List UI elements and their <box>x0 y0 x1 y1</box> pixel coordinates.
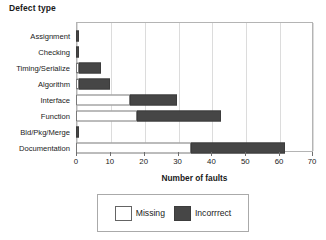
x-axis-title: Number of faults <box>76 173 313 183</box>
axis-tick <box>76 152 77 156</box>
bar-chart: Defect type Assignment Checking Timing/S… <box>0 0 326 240</box>
chart-legend: Missing Incorrrect <box>97 194 249 232</box>
axis-tick-label: 30 <box>173 157 182 166</box>
bar-segment-missing <box>76 94 130 105</box>
axis-tick <box>312 152 313 156</box>
bar-segment-incorrrect <box>76 126 79 137</box>
axis-tick-label: 50 <box>241 157 250 166</box>
axis-tick-label: 20 <box>139 157 148 166</box>
gridline <box>313 23 314 151</box>
bar-segment-incorrrect <box>76 30 79 41</box>
category-label: Timing/Serialize <box>0 63 73 72</box>
bar-segment-incorrrect <box>79 62 101 73</box>
axis-tick <box>110 152 111 156</box>
legend-swatch-missing-icon <box>115 206 132 221</box>
bar-segment-incorrrect <box>79 78 109 89</box>
legend-label: Incorrrect <box>195 208 231 218</box>
legend-swatch-incorrect-icon <box>174 206 191 221</box>
category-label: Interface <box>0 95 73 104</box>
category-label: Bld/Pkg/Merge <box>0 127 73 136</box>
bars-layer <box>76 22 313 152</box>
axis-tick <box>279 152 280 156</box>
axis-tick <box>144 152 145 156</box>
bar-segment-incorrrect <box>130 94 177 105</box>
axis-tick <box>211 152 212 156</box>
category-label: Algorithm <box>0 79 73 88</box>
axis-tick-label: 70 <box>308 157 317 166</box>
axis-tick <box>178 152 179 156</box>
chart-title: Defect type <box>9 3 56 13</box>
axis-tick-label: 10 <box>106 157 115 166</box>
axis-tick <box>245 152 246 156</box>
axis-tick-label: 60 <box>275 157 284 166</box>
legend-entry-missing: Missing <box>115 206 165 221</box>
legend-label: Missing <box>136 208 165 218</box>
category-axis-labels: Assignment Checking Timing/Serialize Alg… <box>0 22 73 152</box>
bar-segment-incorrrect <box>76 46 79 57</box>
category-label: Function <box>0 111 73 120</box>
legend-entry-incorrect: Incorrrect <box>174 206 231 221</box>
category-label: Assignment <box>0 31 73 40</box>
axis-tick-label: 40 <box>207 157 216 166</box>
bar-segment-missing <box>76 142 191 153</box>
bar-segment-incorrrect <box>137 110 221 121</box>
bar-segment-missing <box>76 110 137 121</box>
category-label: Checking <box>0 47 73 56</box>
bar-segment-incorrrect <box>191 142 285 153</box>
axis-tick-label: 0 <box>74 157 78 166</box>
category-label: Documentation <box>0 143 73 152</box>
